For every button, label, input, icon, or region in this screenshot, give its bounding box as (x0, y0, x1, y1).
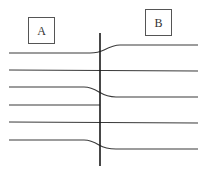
region-a-label: A (29, 18, 55, 44)
region-a-text: A (37, 24, 46, 38)
connected-line-6 (9, 140, 198, 149)
connected-line-3 (9, 87, 198, 97)
region-b-label: B (146, 10, 172, 36)
through-line-5 (9, 122, 198, 123)
connected-line-1 (9, 45, 198, 53)
diagram-canvas: A B (0, 0, 209, 175)
region-b-text: B (154, 16, 162, 30)
through-line-2 (9, 70, 198, 71)
